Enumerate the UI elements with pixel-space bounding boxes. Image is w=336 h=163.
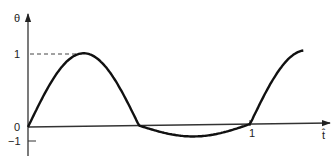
x-axis-label: t̂ (321, 128, 325, 141)
y-tick-label-0: 0 (14, 121, 20, 133)
y-axis-label: θ (14, 12, 20, 24)
y-tick-label-1: 1 (14, 48, 20, 60)
x-axis (28, 123, 330, 127)
y-tick-label-neg1: −1 (8, 135, 21, 147)
sine-chart: θ 1 0 −1 1 t̂ (0, 0, 336, 163)
x-tick-label-1: 1 (249, 127, 255, 139)
